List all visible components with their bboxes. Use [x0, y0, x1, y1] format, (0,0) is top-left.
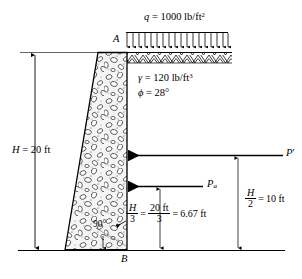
wall-height-equals: =: [22, 144, 28, 155]
surcharge-unit: lb/ft: [184, 11, 202, 22]
surcharge-arrows: [127, 33, 228, 47]
half-height-fraction: H 2: [245, 188, 256, 209]
surcharge-label: q = 1000 lb/ft2: [144, 12, 205, 23]
surcharge-symbol: q: [144, 11, 149, 22]
wall-height-value: 20 ft: [31, 144, 51, 155]
unit-weight-equals: =: [145, 72, 151, 83]
third-height-fraction: H 3: [127, 203, 138, 224]
force-Pa-label: Pa: [207, 179, 217, 190]
surcharge-unit-exponent: 2: [202, 11, 205, 18]
unit-weight-label: γ = 120 lb/ft3: [138, 73, 193, 84]
wall-height-label: H = 20 ft: [12, 145, 50, 156]
right-angle-label: 90°: [93, 220, 106, 230]
force-P-prime-label: P′: [286, 148, 295, 159]
ground-hatch-band: [127, 53, 232, 63]
point-label-A: A: [113, 34, 119, 45]
unit-weight-unit: lb/ft: [172, 72, 190, 83]
third-height-equals-1: =: [140, 208, 146, 219]
third-height-denominator: 3: [127, 214, 138, 224]
half-height-result: 10 ft: [266, 193, 285, 204]
third-height-equation: H 3 = 20 ft 3 = 6.67 ft: [127, 203, 206, 224]
half-height-equation: H 2 = 10 ft: [245, 188, 284, 209]
friction-angle-symbol: ϕ: [138, 87, 143, 98]
half-height-equals: =: [258, 193, 264, 204]
diagram-canvas: [0, 0, 302, 279]
force-P-prime-mark: ′: [292, 147, 294, 158]
third-height-result: 6.67 ft: [180, 208, 206, 219]
surcharge-value: 1000: [160, 11, 181, 22]
unit-weight-exponent: 3: [189, 72, 192, 79]
wall-height-symbol: H: [12, 144, 20, 155]
force-Pa-subscript: a: [213, 182, 217, 190]
friction-angle-label: ϕ = 28°: [138, 88, 169, 99]
third-height-value-fraction: 20 ft 3: [148, 203, 171, 224]
point-label-B: B: [121, 254, 127, 265]
unit-weight-value: 120: [153, 72, 169, 83]
friction-angle-equals: =: [146, 87, 152, 98]
third-height-value-denominator: 3: [148, 214, 171, 224]
retaining-wall-figure: q = 1000 lb/ft2 A γ = 120 lb/ft3 ϕ = 28°…: [0, 0, 302, 279]
friction-angle-value: 28°: [155, 87, 170, 98]
unit-weight-symbol: γ: [138, 72, 142, 83]
surcharge-equals: =: [152, 11, 158, 22]
half-height-denominator: 2: [245, 199, 256, 209]
third-height-equals-2: =: [172, 208, 178, 219]
